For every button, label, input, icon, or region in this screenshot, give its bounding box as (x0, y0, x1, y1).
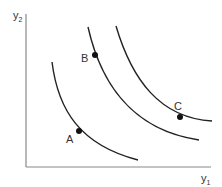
point-c (177, 114, 183, 120)
point-b-label: B (81, 52, 88, 64)
indifference-curve-diagram: y2 y1 A B C (0, 0, 222, 187)
curve-outer (116, 26, 212, 121)
point-a-label: A (66, 133, 74, 145)
point-c-label: C (174, 100, 182, 112)
point-b (92, 52, 98, 58)
y-axis-label: y2 (13, 9, 23, 23)
x-axis-label: y1 (201, 172, 211, 186)
curve-inner (52, 62, 138, 160)
point-a (76, 128, 82, 134)
